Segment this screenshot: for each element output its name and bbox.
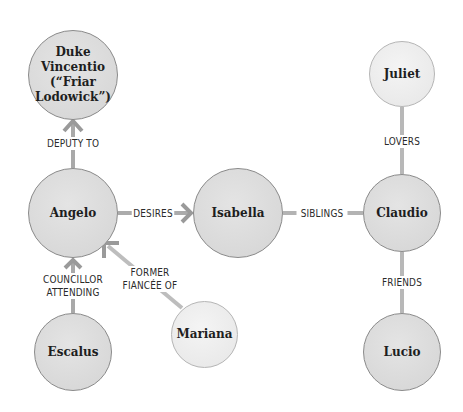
edge-label-siblings: SIBLINGS xyxy=(297,207,348,220)
node-isabella[interactable]: Isabella xyxy=(193,168,283,258)
node-label-line: Duke xyxy=(35,45,111,60)
node-label: Lucio xyxy=(383,345,420,360)
node-label: Escalus xyxy=(47,345,98,360)
edge-label-former-fiancee-of: FORMER FIANCÉE OF xyxy=(119,266,180,292)
edge-label-lovers: LOVERS xyxy=(383,135,420,148)
node-label-line: Lodowick”) xyxy=(35,90,111,105)
node-label: Claudio xyxy=(376,206,428,221)
node-angelo[interactable]: Angelo xyxy=(28,168,118,258)
edge-label-friends: FRIENDS xyxy=(380,276,424,289)
node-mariana[interactable]: Mariana xyxy=(171,301,238,368)
node-label: Isabella xyxy=(211,206,264,221)
edge-label-desires: DESIRES xyxy=(132,207,175,220)
edge-label-line: FIANCÉE OF xyxy=(119,279,180,292)
node-claudio[interactable]: Claudio xyxy=(363,174,441,252)
node-duke-vincentio[interactable]: Duke Vincentio (“Friar Lodowick”) xyxy=(28,30,118,120)
node-label: Mariana xyxy=(176,327,232,342)
node-label: Angelo xyxy=(50,206,97,221)
node-label-line: (“Friar xyxy=(35,75,111,90)
edge-label-deputy-to: DEPUTY TO xyxy=(43,137,103,150)
edge-label-line: COUNCILLOR xyxy=(42,273,105,286)
node-lucio[interactable]: Lucio xyxy=(363,313,441,391)
edge-label-councillor-attending: COUNCILLOR ATTENDING xyxy=(42,273,105,299)
edge-label-line: ATTENDING xyxy=(42,286,105,299)
edge-label-line: FORMER xyxy=(119,266,180,279)
node-label: Juliet xyxy=(384,67,421,82)
node-label-line: Vincentio xyxy=(35,60,111,75)
node-escalus[interactable]: Escalus xyxy=(34,313,112,391)
node-juliet[interactable]: Juliet xyxy=(369,41,435,107)
